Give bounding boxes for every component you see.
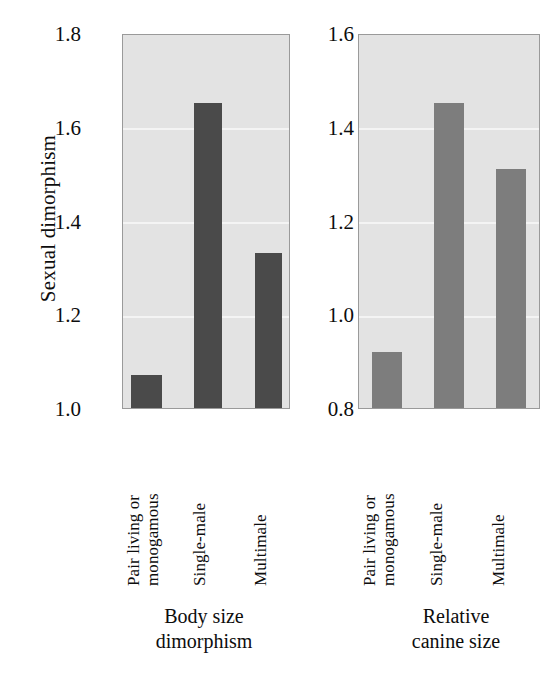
y-tick-label: 1.2 (294, 212, 354, 233)
bar-pair-living (131, 375, 162, 408)
plot-area-relative-canine (358, 34, 540, 409)
bar-multimale (496, 169, 526, 408)
y-tick-label: 1.2 (21, 305, 81, 326)
x-category-label-single-male: Single-male (427, 418, 446, 586)
y-tick-label: 1.0 (294, 305, 354, 326)
y-tick-label: 1.0 (21, 399, 81, 420)
panel-caption-relative-canine: Relative canine size (356, 604, 556, 654)
panel-caption-body-size: Body size dimorphism (104, 604, 304, 654)
y-tick-label: 1.4 (294, 118, 354, 139)
bar-single-male (194, 103, 222, 408)
y-tick-label: 1.4 (21, 212, 81, 233)
y-tick-label: 1.6 (21, 118, 81, 139)
y-tick-label: 0.8 (294, 399, 354, 420)
bar-pair-living (372, 352, 402, 408)
figure-container: Sexual dimorphism 1.8 1.6 1.4 1.2 1.0 Pa… (0, 0, 557, 681)
y-tick-label: 1.6 (294, 24, 354, 45)
y-tick-label: 1.8 (21, 24, 81, 45)
x-category-label-multimale: Multimale (489, 418, 508, 586)
x-category-label-multimale: Multimale (251, 418, 270, 586)
x-category-label-pair-living: Pair living or monogamous (360, 418, 398, 586)
x-category-label-single-male: Single-male (190, 418, 209, 586)
x-category-label-pair-living: Pair living or monogamous (124, 418, 162, 586)
bar-single-male (434, 103, 464, 408)
plot-area-body-size (122, 34, 290, 409)
bar-multimale (255, 253, 282, 408)
